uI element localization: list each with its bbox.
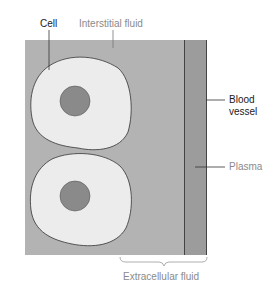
nucleus-bottom <box>60 181 90 211</box>
nucleus-top <box>60 86 90 116</box>
extracellular-brace <box>120 257 207 266</box>
fluid-compartments-diagram <box>0 0 275 288</box>
blood-vessel-label-line2: vessel <box>229 106 257 118</box>
interstitial-fluid-label: Interstitial fluid <box>79 18 143 30</box>
cell-label: Cell <box>40 18 57 30</box>
blood-vessel-label-line1: Blood <box>229 94 255 106</box>
blood-vessel-region <box>184 40 207 255</box>
plasma-label: Plasma <box>229 161 262 173</box>
extracellular-fluid-label: Extracellular fluid <box>123 271 199 283</box>
